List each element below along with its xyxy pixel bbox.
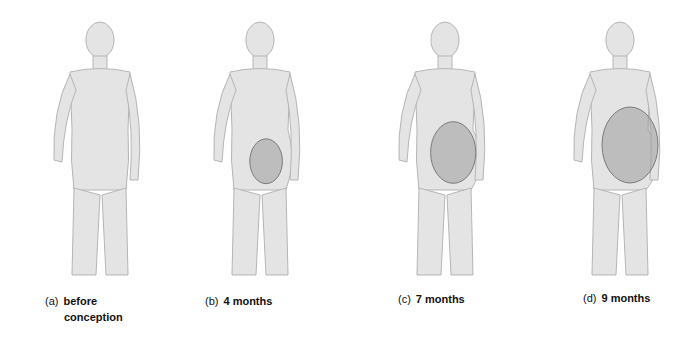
caption-text: 7 months	[416, 293, 465, 305]
right-leg-shape	[102, 188, 128, 275]
caption-d: (d)9 months	[583, 290, 650, 306]
right-leg-shape	[447, 188, 473, 275]
left-leg-shape	[72, 188, 100, 275]
head-shape	[246, 22, 274, 58]
caption-letter: (b)	[205, 295, 218, 307]
right-leg-shape	[622, 188, 648, 275]
left-leg-shape	[592, 188, 620, 275]
caption-text: 4 months	[223, 295, 272, 307]
uterus-shape	[431, 122, 476, 184]
caption-letter: (d)	[583, 292, 596, 304]
caption-letter: (c)	[398, 293, 411, 305]
illustration-4-months	[190, 10, 320, 280]
head-shape	[86, 22, 114, 58]
uterus-shape	[602, 107, 658, 183]
caption-a: (a)before conception	[45, 293, 123, 325]
left-leg-shape	[417, 188, 445, 275]
caption-c: (c)7 months	[398, 291, 465, 307]
neck-shape	[253, 56, 267, 70]
neck-shape	[93, 56, 107, 70]
caption-text: before	[63, 295, 97, 307]
head-shape	[606, 22, 634, 58]
torso-shape	[70, 69, 130, 191]
caption-letter: (a)	[45, 295, 58, 307]
neck-shape	[438, 56, 452, 70]
illustration-9-months	[550, 10, 680, 280]
illustration-7-months	[375, 10, 505, 280]
illustration-before-conception	[30, 10, 160, 280]
caption-b: (b)4 months	[205, 293, 272, 309]
left-leg-shape	[232, 188, 260, 275]
uterus-shape	[250, 139, 283, 184]
head-shape	[431, 22, 459, 58]
neck-shape	[613, 56, 627, 70]
caption-text: 9 months	[601, 292, 650, 304]
caption-text-line2: conception	[45, 309, 123, 325]
right-leg-shape	[262, 188, 288, 275]
